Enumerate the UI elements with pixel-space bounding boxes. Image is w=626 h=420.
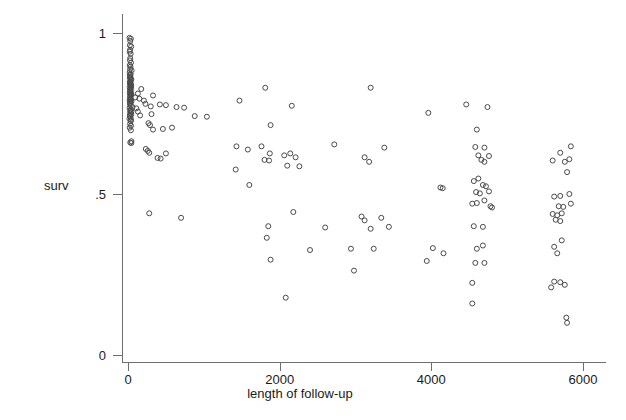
- data-point: [565, 170, 570, 175]
- data-point: [332, 142, 337, 147]
- data-point: [151, 93, 156, 98]
- data-point: [368, 85, 373, 90]
- data-point: [179, 215, 184, 220]
- data-point: [567, 192, 572, 197]
- data-point: [568, 201, 573, 206]
- x-axis-ticks: 0200040006000: [124, 363, 597, 388]
- x-axis-title: length of follow-up: [247, 386, 353, 401]
- data-point: [368, 226, 373, 231]
- data-point: [488, 204, 493, 209]
- data-point: [441, 251, 446, 256]
- data-point: [182, 105, 187, 110]
- data-point: [174, 105, 179, 110]
- data-point: [283, 295, 288, 300]
- data-point: [474, 246, 479, 251]
- data-point: [490, 205, 495, 210]
- y-tick-label: .5: [95, 187, 106, 202]
- data-point: [371, 246, 376, 251]
- data-point: [464, 102, 469, 107]
- data-point: [268, 123, 273, 128]
- data-point: [476, 176, 481, 181]
- data-point: [568, 144, 573, 149]
- data-point: [149, 112, 154, 117]
- data-point: [129, 44, 134, 49]
- data-point: [282, 153, 287, 158]
- data-point: [264, 235, 269, 240]
- data-point: [486, 154, 491, 159]
- data-point: [564, 315, 569, 320]
- data-point: [474, 127, 479, 132]
- data-point: [550, 158, 555, 163]
- data-point: [266, 224, 271, 229]
- data-point: [562, 282, 567, 287]
- data-point: [285, 163, 290, 168]
- y-tick-label: 1: [99, 26, 106, 41]
- data-point: [558, 193, 563, 198]
- data-point: [386, 224, 391, 229]
- data-point: [559, 238, 564, 243]
- data-point: [362, 218, 367, 223]
- data-point: [158, 156, 163, 161]
- data-point: [482, 198, 487, 203]
- data-point: [483, 184, 488, 189]
- data-point: [263, 85, 268, 90]
- data-point: [559, 211, 564, 216]
- data-point: [297, 164, 302, 169]
- data-point: [351, 268, 356, 273]
- data-point: [367, 159, 372, 164]
- data-point: [426, 110, 431, 115]
- y-tick-label: 0: [99, 348, 106, 363]
- data-point: [470, 301, 475, 306]
- data-point: [169, 125, 174, 130]
- data-point: [552, 194, 557, 199]
- data-point: [293, 155, 298, 160]
- data-point: [480, 182, 485, 187]
- data-point: [157, 102, 162, 107]
- data-point: [480, 224, 485, 229]
- scatter-plot-figure: 0.51 0200040006000 length of follow-up s…: [0, 0, 626, 420]
- data-point: [473, 260, 478, 265]
- data-point: [160, 126, 165, 131]
- data-point: [482, 260, 487, 265]
- data-point: [233, 167, 238, 172]
- data-point: [480, 243, 485, 248]
- data-point: [555, 251, 560, 256]
- plot-canvas: 0.51 0200040006000 length of follow-up s…: [0, 0, 626, 420]
- data-point: [565, 320, 570, 325]
- data-point: [139, 87, 144, 92]
- x-tick-label: 0: [124, 372, 131, 387]
- data-point: [567, 157, 572, 162]
- data-point: [482, 145, 487, 150]
- data-point: [348, 246, 353, 251]
- data-points-layer: [127, 35, 573, 325]
- data-point: [268, 257, 273, 262]
- data-point: [288, 151, 293, 156]
- data-point: [558, 150, 563, 155]
- data-point: [379, 215, 384, 220]
- axes-group: [123, 14, 607, 363]
- data-point: [430, 246, 435, 251]
- x-tick-label: 4000: [417, 372, 446, 387]
- data-point: [247, 182, 252, 187]
- data-point: [192, 114, 197, 119]
- data-point: [558, 219, 563, 224]
- data-point: [549, 285, 554, 290]
- data-point: [204, 114, 209, 119]
- data-point: [486, 189, 491, 194]
- data-point: [473, 144, 478, 149]
- data-point: [470, 280, 475, 285]
- data-point: [552, 244, 557, 249]
- data-point: [151, 127, 156, 132]
- y-axis-ticks: 0.51: [95, 26, 122, 363]
- data-point: [245, 147, 250, 152]
- data-point: [362, 155, 367, 160]
- data-point: [424, 258, 429, 263]
- data-point: [147, 211, 152, 216]
- x-tick-label: 6000: [569, 372, 598, 387]
- data-point: [323, 225, 328, 230]
- data-point: [382, 145, 387, 150]
- x-tick-label: 2000: [265, 372, 294, 387]
- data-point: [552, 279, 557, 284]
- data-point: [291, 210, 296, 215]
- data-point: [163, 103, 168, 108]
